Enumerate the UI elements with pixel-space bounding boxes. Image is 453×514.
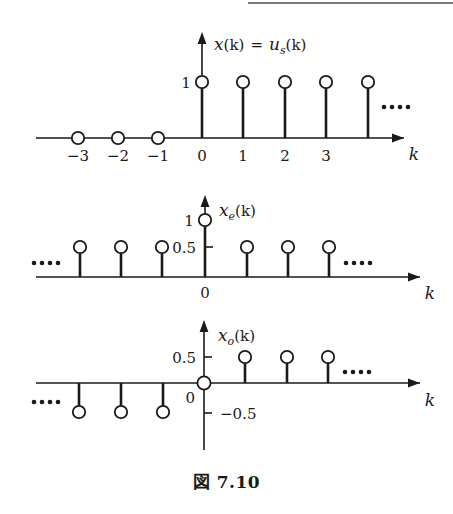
x-axis — [36, 272, 420, 281]
xtick-label-1: 1 — [238, 147, 248, 165]
figure-caption-number: 7.10 — [217, 472, 260, 492]
sample-stems-right-positive — [239, 351, 334, 383]
xtick-label-3: 3 — [321, 147, 331, 165]
xtick-label-0: 0 — [197, 147, 207, 165]
svg-text:xe(k): xe(k) — [219, 200, 256, 223]
sample-stems-right — [241, 241, 335, 277]
x-axis-label-k: k — [409, 144, 419, 164]
xtick-label-2: 2 — [280, 147, 290, 165]
figure-caption: 図 7.10 — [0, 468, 453, 493]
svg-text:x(k)=us(k): x(k)=us(k) — [214, 34, 306, 57]
ytick-label-half: 0.5 — [172, 349, 196, 367]
continuation-dots-right — [382, 105, 411, 110]
continuation-dots-right — [344, 261, 373, 266]
x-axis — [36, 378, 420, 387]
title-u-arg: (k) — [286, 36, 307, 54]
continuation-dots-left — [32, 261, 61, 266]
sample-marker-origin — [197, 376, 210, 389]
xtick-label-m1: −1 — [147, 147, 169, 165]
figure-root: 1 −3 −2 −1 0 1 2 3 k x(k)=us(k) — [0, 0, 453, 514]
plot-even-part: 1 0.5 0 k xe(k) — [0, 185, 453, 305]
svg-text:xo(k): xo(k) — [218, 325, 255, 348]
title-x-symbol: x — [214, 34, 224, 54]
plot-title-even-part: xe(k) — [219, 200, 256, 223]
title-x-arg: (k) — [224, 36, 245, 54]
continuation-dots-right — [343, 370, 372, 375]
plot-title-odd-part: xo(k) — [218, 325, 255, 348]
ytick-label-1: 1 — [184, 212, 194, 230]
sample-stems-one — [196, 76, 374, 138]
xtick-label-m2: −2 — [107, 147, 129, 165]
xtick-label-0: 0 — [200, 284, 210, 302]
sample-stems-left-negative — [73, 383, 169, 418]
x-axis — [36, 133, 404, 142]
sample-stems-left — [74, 241, 168, 277]
xtick-label-m3: −3 — [67, 147, 89, 165]
figure-caption-symbol: 図 — [193, 472, 211, 492]
page-top-rule — [248, 2, 453, 4]
ytick-label-1: 1 — [181, 74, 191, 92]
title-x-symbol: x — [219, 200, 229, 220]
sample-stem-zero — [199, 214, 211, 277]
plot-title-unit-step: x(k)=us(k) — [214, 34, 306, 57]
plot-unit-step: 1 −3 −2 −1 0 1 2 3 k x(k)=us(k) — [0, 20, 453, 180]
xtick-label-0: 0 — [185, 389, 195, 407]
x-axis-label-k: k — [425, 390, 435, 410]
x-axis-label-k: k — [425, 283, 435, 303]
continuation-dots-left — [32, 400, 61, 405]
ytick-label-half: 0.5 — [172, 239, 196, 257]
title-equals: = — [250, 36, 263, 54]
title-x-arg: (k) — [235, 202, 256, 220]
title-u-symbol: u — [269, 34, 280, 54]
ytick-label-neg-half: −0.5 — [220, 405, 256, 423]
title-x-arg: (k) — [234, 327, 255, 345]
title-x-symbol: x — [218, 325, 228, 345]
plot-odd-part: 0.5 −0.5 0 k xo(k) — [0, 310, 453, 460]
